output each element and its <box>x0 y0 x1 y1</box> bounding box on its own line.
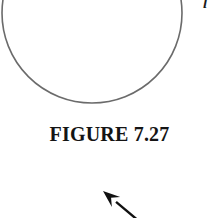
arrow-shaft <box>116 202 140 218</box>
arrow-pointer <box>103 191 140 218</box>
clipped-italic-label: l <box>203 0 207 11</box>
figure-page: FIGURE 7.27 l <box>0 0 219 218</box>
figure-caption: FIGURE 7.27 <box>0 123 219 145</box>
circle-shape <box>2 0 182 103</box>
figure-graphic <box>0 0 219 218</box>
